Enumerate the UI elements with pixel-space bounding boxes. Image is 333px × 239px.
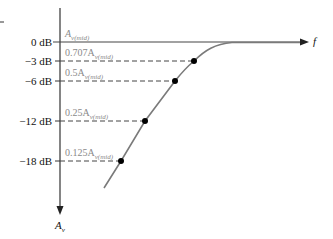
db-label-minus6: −6 dB (0, 75, 52, 87)
gain-label-mid: Av(mid) (65, 28, 89, 44)
response-curve (104, 43, 300, 189)
x-axis-arrow-icon (300, 39, 309, 46)
gain-label-0125: 0.125Av(mid) (65, 147, 113, 163)
gain-label-05: 0.5Av(mid) (65, 67, 103, 83)
db-label-minus12: −12 dB (0, 115, 52, 127)
db-label-0: 0 dB (0, 36, 52, 48)
x-axis-label: f (313, 35, 316, 47)
data-points (118, 58, 197, 164)
db-label-minus18: −18 dB (0, 155, 52, 167)
y-axis-label: Av (55, 219, 65, 234)
gain-label-025: 0.25Av(mid) (65, 107, 108, 123)
y-axis-arrow-icon (57, 206, 64, 215)
gain-label-0707: 0.707Av(mid) (65, 47, 113, 63)
db-label-minus3: −3 dB (0, 55, 52, 67)
